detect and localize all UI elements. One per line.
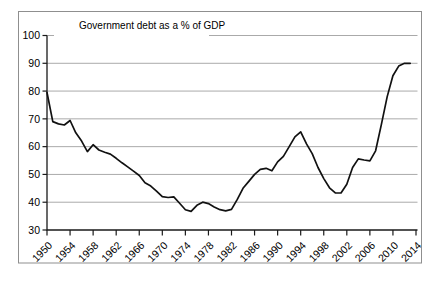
chart-figure: 3040506070809010019501954195819621966197… xyxy=(0,0,436,283)
y-tick-label: 70 xyxy=(28,113,40,125)
y-tick-label: 40 xyxy=(28,196,40,208)
y-tick-label: 80 xyxy=(28,85,40,97)
chart-title: Government debt as a % of GDP xyxy=(79,20,226,31)
y-tick-label: 90 xyxy=(28,57,40,69)
chart-canvas: 3040506070809010019501954195819621966197… xyxy=(0,0,436,283)
y-tick-label: 60 xyxy=(28,140,40,152)
y-tick-label: 100 xyxy=(22,29,40,41)
y-tick-label: 30 xyxy=(28,224,40,236)
y-tick-label: 50 xyxy=(28,168,40,180)
